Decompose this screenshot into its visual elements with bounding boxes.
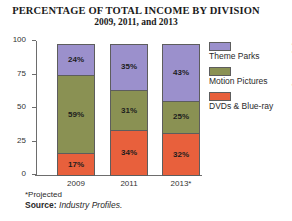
legend-item-motion-pictures[interactable]: Motion Pictures (209, 67, 289, 87)
segment-theme-parks-2013[interactable]: 43% (162, 44, 200, 102)
segment-label: 43% (173, 69, 189, 77)
y-tick-label-100: 100 (13, 36, 26, 44)
source-line: Source: Industry Profiles. (25, 200, 122, 211)
x-tick-label-2013: 2013* (171, 179, 192, 188)
x-tick-label-2009: 2009 (67, 179, 85, 188)
plot-area: 0 25 50 75 100 24% 59% 17% 2009 35% 31% … (36, 41, 202, 176)
segment-label: 25% (173, 113, 189, 121)
source-name: Industry Profiles. (59, 200, 122, 210)
segment-motion-pictures-2011[interactable]: 31% (110, 90, 148, 132)
y-tick-label-25: 25 (17, 137, 26, 145)
segment-dvds-bluray-2011[interactable]: 34% (110, 130, 148, 176)
y-tick-75: 75 (32, 74, 36, 75)
y-tick-0: 0 (32, 174, 36, 175)
segment-label: 35% (121, 63, 137, 71)
legend-item-dvds-bluray[interactable]: DVDs & Blue-ray (209, 92, 289, 112)
chart-subtitle: 2009, 2011, and 2013 (0, 17, 272, 28)
segment-label: 31% (121, 107, 137, 115)
bar-2009[interactable]: 24% 59% 17% 2009 (57, 44, 95, 175)
segment-theme-parks-2009[interactable]: 24% (57, 44, 95, 76)
segment-label: 32% (173, 151, 189, 159)
legend-label-theme-parks: Theme Parks (209, 51, 289, 62)
footnotes: *Projected Source: Industry Profiles. (25, 190, 122, 211)
segment-motion-pictures-2013[interactable]: 25% (162, 101, 200, 135)
bar-2013[interactable]: 43% 25% 32% 2013* (162, 44, 200, 175)
y-tick-100: 100 (32, 40, 36, 41)
page-title: PERCENTAGE OF TOTAL INCOME BY DIVISION (0, 5, 272, 17)
x-tick-label-2011: 2011 (120, 179, 137, 188)
segment-dvds-bluray-2009[interactable]: 17% (57, 153, 95, 176)
y-tick-50: 50 (32, 107, 36, 108)
legend-label-motion-pictures: Motion Pictures (209, 76, 289, 87)
legend-swatch-dvds-bluray (209, 92, 231, 101)
segment-label: 34% (121, 149, 137, 157)
segment-motion-pictures-2009[interactable]: 59% (57, 75, 95, 154)
chart-title-block: PERCENTAGE OF TOTAL INCOME BY DIVISION 2… (0, 5, 272, 28)
y-tick-label-0: 0 (22, 170, 26, 178)
y-axis-line (36, 41, 37, 176)
segment-label: 24% (68, 56, 84, 64)
y-tick-25: 25 (32, 141, 36, 142)
legend-swatch-theme-parks (209, 42, 231, 51)
bar-2011[interactable]: 35% 31% 34% 2011 (110, 44, 148, 175)
legend: Theme Parks Motion Pictures DVDs & Blue-… (209, 42, 289, 117)
y-tick-label-75: 75 (17, 70, 26, 78)
segment-dvds-bluray-2013[interactable]: 32% (162, 133, 200, 176)
legend-item-theme-parks[interactable]: Theme Parks (209, 42, 289, 62)
footnote-projected: *Projected (25, 190, 122, 200)
source-label: Source: (25, 200, 57, 210)
segment-label: 17% (68, 161, 84, 169)
legend-swatch-motion-pictures (209, 67, 231, 76)
legend-label-dvds-bluray: DVDs & Blue-ray (209, 101, 289, 112)
segment-theme-parks-2011[interactable]: 35% (110, 44, 148, 91)
segment-label: 59% (68, 111, 84, 119)
y-tick-label-50: 50 (17, 103, 26, 111)
